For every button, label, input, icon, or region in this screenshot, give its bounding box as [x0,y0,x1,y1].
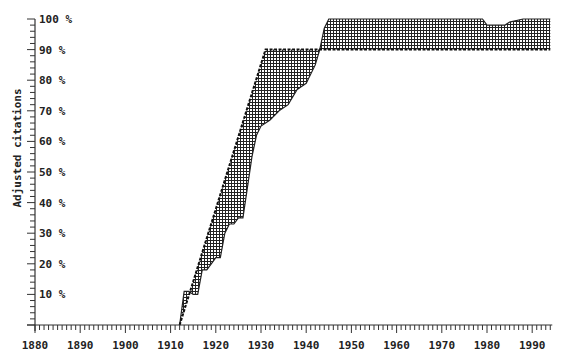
x-tick-label: 1960 [383,339,410,352]
x-tick-label: 1890 [67,339,94,352]
y-tick-label: 20 % [39,258,66,271]
chart: 1880189019001910192019301940195019601970… [0,0,566,362]
y-tick-label: 100 % [39,13,72,26]
y-tick-label: 40 % [39,197,66,210]
x-tick-label: 1970 [429,339,456,352]
x-tick-label: 1910 [157,339,184,352]
x-tick-label: 1940 [293,339,320,352]
y-tick-label: 60 % [39,135,66,148]
range-fill [180,19,551,325]
y-tick-label: 10 % [39,288,66,301]
y-axis-title: Adjusted citations [11,88,24,207]
x-tick-label: 1900 [112,339,139,352]
x-tick-label: 1950 [338,339,365,352]
x-tick-label: 1980 [474,339,501,352]
y-tick-label: 80 % [39,74,66,87]
x-tick-label: 1880 [22,339,49,352]
x-tick-label: 1930 [248,339,275,352]
y-tick-label: 90 % [39,44,66,57]
y-tick-label: 50 % [39,166,66,179]
citation-range-area [180,19,551,325]
x-tick-label: 1920 [203,339,230,352]
y-tick-label: 70 % [39,105,66,118]
x-tick-label: 1990 [519,339,546,352]
y-tick-label: 30 % [39,227,66,240]
